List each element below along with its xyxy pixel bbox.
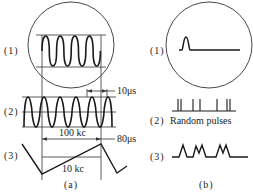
panel-b bbox=[166, 2, 252, 157]
sine-wave-crt bbox=[42, 36, 100, 66]
row-label-a2: (2) bbox=[4, 107, 19, 117]
annotation-10kc: 10 kc bbox=[62, 164, 84, 174]
caption-b: (b) bbox=[199, 180, 214, 190]
row-label-a1: (1) bbox=[4, 46, 19, 56]
arrowhead-icon bbox=[102, 89, 107, 92]
row-label-b1: (1) bbox=[150, 46, 165, 56]
caption-a: (a) bbox=[64, 180, 78, 190]
diagram-canvas bbox=[0, 0, 253, 195]
annotation-100kc: 100 kc bbox=[59, 128, 86, 138]
arrowhead-icon bbox=[42, 137, 47, 140]
arrowhead-icon bbox=[96, 137, 101, 140]
crt-screen-b bbox=[166, 2, 252, 88]
random-pulses-label: Random pulses bbox=[170, 116, 231, 126]
annotation-80us: 80μs bbox=[117, 134, 136, 144]
annotation-10us: 10μs bbox=[117, 86, 136, 96]
panel-a bbox=[22, 2, 127, 180]
arrowhead-icon bbox=[87, 89, 92, 92]
pulse-train bbox=[172, 145, 248, 157]
random-pulse-spikes bbox=[178, 99, 230, 111]
figure: (1) (2) (3) 10μs 100 kc 80μs 10 kc (a) (… bbox=[0, 0, 253, 195]
single-pulse bbox=[179, 37, 240, 50]
row-label-a3: (3) bbox=[4, 151, 19, 161]
row-label-b3: (3) bbox=[150, 152, 165, 162]
row-label-b2: (2) bbox=[150, 116, 165, 126]
